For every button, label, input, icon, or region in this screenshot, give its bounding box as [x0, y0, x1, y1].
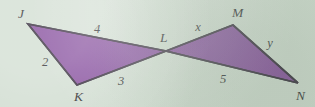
side-label-ln: 5: [220, 72, 226, 86]
geometry-figure: J K L M N 4 2 3 x y 5: [0, 0, 315, 107]
vertex-label-n: N: [295, 88, 306, 103]
side-label-kl: 3: [117, 74, 124, 88]
vertex-label-j: J: [18, 6, 25, 21]
vertex-label-k: K: [73, 89, 84, 104]
geometry-canvas: J K L M N 4 2 3 x y 5: [0, 0, 315, 107]
side-label-lm: x: [194, 20, 201, 34]
vertex-label-l: L: [159, 30, 168, 45]
vertex-label-m: M: [231, 5, 244, 20]
side-label-jl: 4: [94, 22, 100, 36]
side-label-mn: y: [265, 36, 273, 50]
side-label-jk: 2: [42, 55, 48, 69]
triangle-lmn: [166, 25, 298, 83]
